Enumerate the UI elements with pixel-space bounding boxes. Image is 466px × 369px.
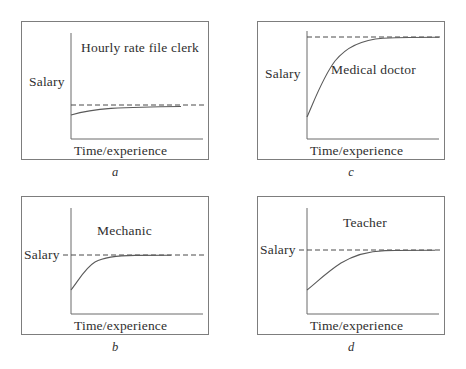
panel-c-curve [307, 37, 439, 117]
panel-d: Salary Teacher Time/experience [257, 196, 445, 335]
panel-b-plot [21, 196, 209, 335]
panel-c-x-axis-label: Time/experience [310, 144, 403, 158]
panel-c-y-axis-label: Salary [265, 67, 301, 81]
panel-a-y-axis-label: Salary [29, 75, 65, 89]
panel-c-plot [257, 21, 445, 160]
panel-b-y-axis-label: Salary [24, 248, 60, 262]
panel-d-curve [307, 250, 435, 290]
panel-d-x-axis-label: Time/experience [310, 319, 403, 333]
panel-letter-c: c [257, 166, 445, 179]
panel-b-curve [71, 255, 171, 290]
panel-d-y-axis-label: Salary [260, 243, 296, 257]
figure-salary-experience-curves: Salary Hourly rate file clerk Time/exper… [0, 0, 466, 369]
panel-b-x-axis-label: Time/experience [74, 319, 167, 333]
panel-letter-d: d [257, 341, 445, 354]
panel-a-curve [71, 107, 181, 116]
panel-a-series-label: Hourly rate file clerk [81, 41, 199, 55]
panel-letter-a: a [21, 166, 209, 179]
panel-c: Salary Medical doctor Time/experience [257, 21, 445, 160]
panel-a-x-axis-label: Time/experience [74, 144, 167, 158]
panel-b: Salary Mechanic Time/experience [21, 196, 209, 335]
panel-letter-b: b [21, 341, 209, 354]
panel-a: Salary Hourly rate file clerk Time/exper… [21, 21, 209, 160]
panel-c-series-label: Medical doctor [331, 63, 416, 77]
panel-b-series-label: Mechanic [97, 224, 152, 238]
panel-d-series-label: Teacher [343, 216, 387, 230]
